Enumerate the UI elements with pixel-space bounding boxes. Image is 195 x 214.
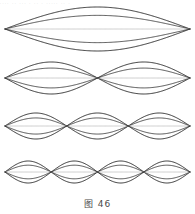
wave-mode-4	[5, 161, 190, 183]
wave-trace-h1-p1	[5, 15, 190, 29]
wave-trace-h1-p0	[5, 7, 190, 29]
figure-container: .... .. ... . .. . ..... .. . 图 46	[0, 0, 195, 214]
wave-mode-3	[5, 113, 190, 139]
wave-mode-2	[5, 62, 190, 94]
figure-caption: 图 46	[0, 197, 195, 210]
wave-modes-group	[5, 7, 190, 183]
wave-mode-1	[5, 7, 190, 51]
wave-trace-h1-p4	[5, 29, 190, 51]
standing-wave-diagram	[0, 0, 195, 214]
wave-trace-h1-p3	[5, 29, 190, 43]
